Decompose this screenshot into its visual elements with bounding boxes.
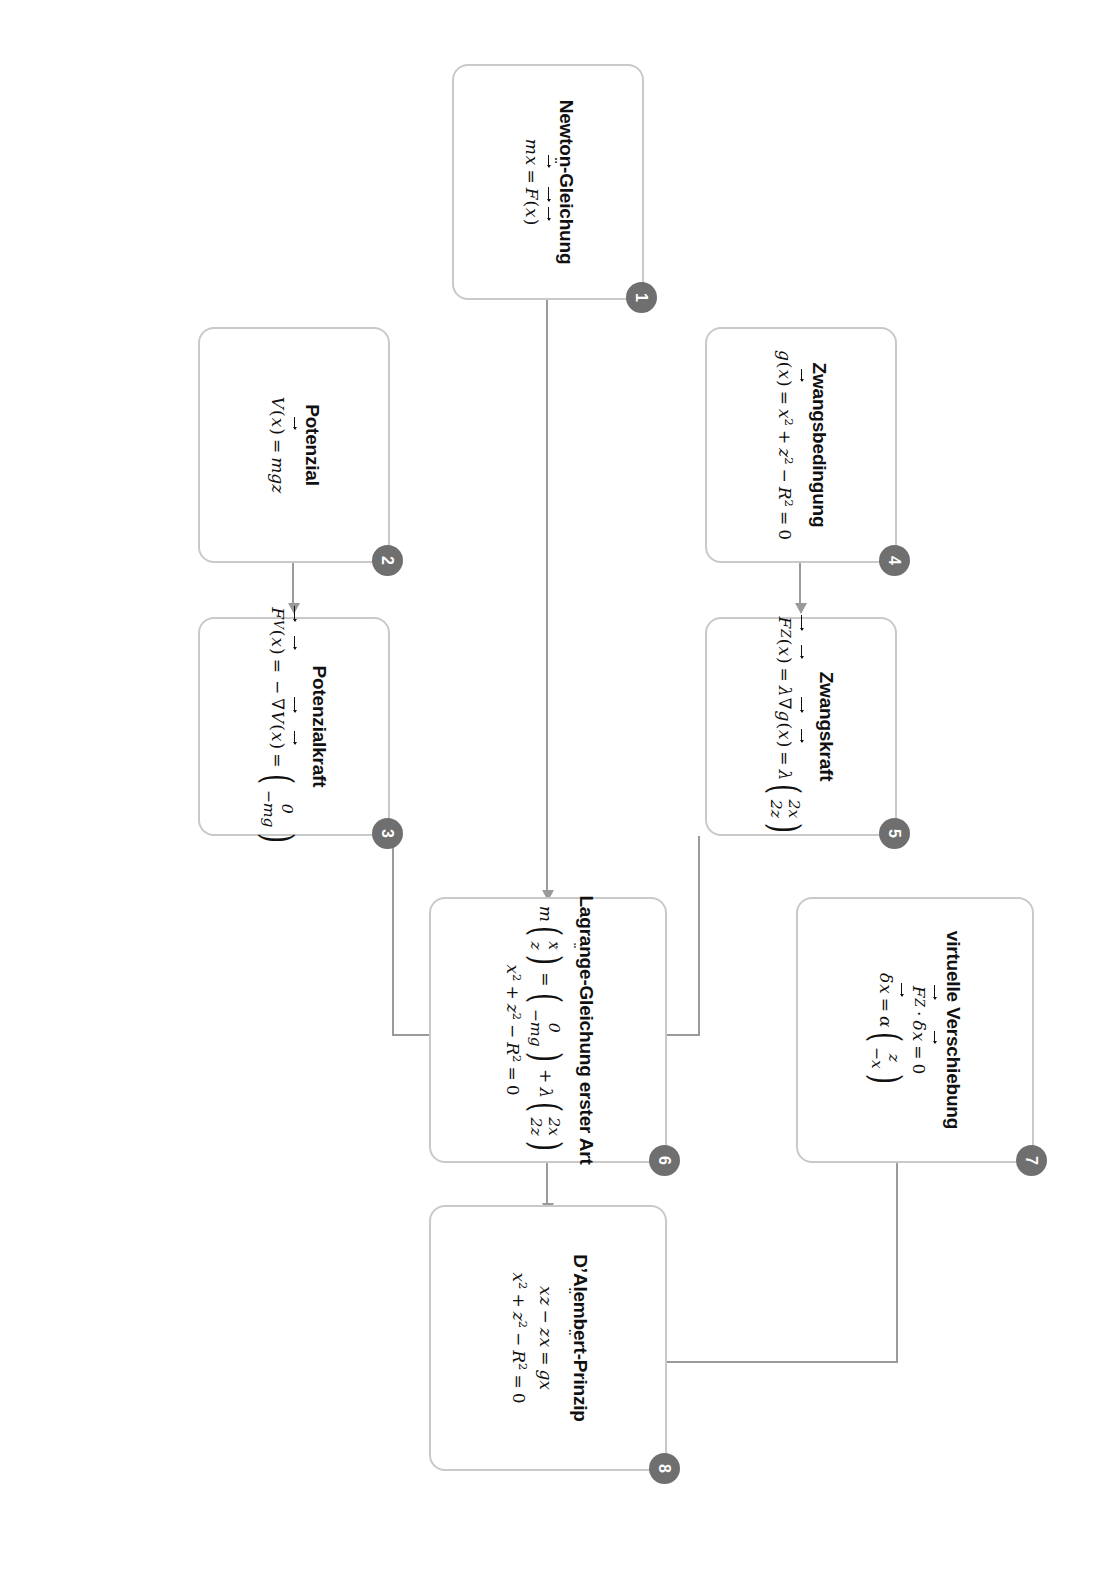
node-equation-2: V(x) =mgz [267, 397, 290, 493]
node-equation-7-displacement: δx =α ( z−x ) [868, 973, 903, 1087]
node-zwangsbedingung[interactable]: 4 Zwangsbedingung g(x) = x2+ z2− R2 =0 [705, 327, 897, 563]
node-lagrange-gleichung-erster-art[interactable]: 6 Lagrange-Gleichung erster Art m ( xz )… [429, 897, 667, 1163]
connector-5-to-6-horizontal [698, 836, 700, 1036]
node-badge-1: 1 [626, 282, 657, 313]
node-equation-6-constraint: x2+ z2− R2 =0 [501, 964, 524, 1095]
connector-1-to-6 [546, 300, 548, 897]
node-equation-8-motion: xz − zx =gx [534, 1286, 557, 1390]
connector-2-to-3 [292, 563, 294, 605]
diagram-page: 1 Newton-Gleichung mx = F(x) 2 Potenzial… [0, 0, 1094, 1582]
node-badge-8: 8 [649, 1453, 680, 1484]
diagram-canvas: 1 Newton-Gleichung mx = F(x) 2 Potenzial… [0, 0, 1094, 1582]
node-badge-6: 6 [649, 1145, 680, 1176]
connector-7-to-8-vertical [648, 1361, 898, 1363]
node-title-7: virtuelle Verschiebung [942, 931, 964, 1129]
node-newton-gleichung[interactable]: 1 Newton-Gleichung mx = F(x) [452, 64, 644, 300]
node-title-4: Zwangsbedingung [808, 363, 830, 528]
connector-3-to-6-horizontal [392, 836, 394, 1036]
node-title-8: D’Alembert-Prinzip [569, 1254, 591, 1421]
node-title-3: Potenzialkraft [308, 666, 330, 788]
node-equation-3: FV(x) =− ∇V(x) = ( 0−mg ) [260, 607, 295, 846]
node-dalembert-prinzip[interactable]: 8 D’Alembert-Prinzip xz − zx =gx x2+ z2−… [429, 1205, 667, 1471]
node-equation-7-work: FZ · δx =0 [907, 986, 930, 1075]
node-badge-2: 2 [372, 545, 403, 576]
node-virtuelle-verschiebung[interactable]: 7 virtuelle Verschiebung FZ · δx =0 δx =… [796, 897, 1034, 1163]
arrowhead-4-to-5 [795, 603, 807, 614]
node-equation-1: mx = F(x) [521, 139, 544, 226]
connector-7-to-8-horizontal [896, 1163, 898, 1363]
node-title-6: Lagrange-Gleichung erster Art [575, 895, 597, 1164]
node-title-5: Zwangskraft [815, 672, 837, 782]
node-title-1: Newton-Gleichung [555, 100, 577, 265]
node-equation-5: FZ(x) =λ ∇g(x) =λ ( 2x2z ) [767, 616, 802, 836]
node-badge-3: 3 [372, 818, 403, 849]
node-equation-8-constraint: x2+ z2− R2 =0 [507, 1272, 530, 1403]
node-equation-6-motion: m ( xz ) = ( 0−mg ) +λ ( 2x2z ) [528, 906, 563, 1154]
node-zwangskraft[interactable]: 5 Zwangskraft FZ(x) =λ ∇g(x) =λ ( 2x2z ) [705, 617, 897, 836]
node-potenzialkraft[interactable]: 3 Potenzialkraft FV(x) =− ∇V(x) = ( 0−mg… [198, 617, 390, 836]
node-badge-5: 5 [879, 818, 910, 849]
node-badge-4: 4 [879, 545, 910, 576]
node-title-2: Potenzial [301, 404, 323, 486]
node-potenzial[interactable]: 2 Potenzial V(x) =mgz [198, 327, 390, 563]
connector-6-to-8 [546, 1163, 548, 1205]
node-badge-7: 7 [1016, 1145, 1047, 1176]
connector-4-to-5 [799, 563, 801, 605]
node-equation-4: g(x) = x2+ z2− R2 =0 [774, 350, 797, 540]
